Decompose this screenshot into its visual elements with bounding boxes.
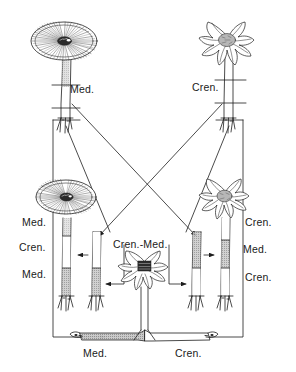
label-top-left-stock: Med.: [70, 83, 94, 95]
flower-head-crenate-top-right: [199, 22, 254, 65]
flower-head-medium-top-left: [31, 22, 97, 60]
label-mid-right-lower: Cren.: [245, 271, 272, 283]
figure-canvas: Med. Cren. Med. Cren. Med. Cren.-Med. Cr…: [0, 0, 296, 372]
label-mid-left-lower: Med.: [22, 268, 46, 280]
label-chimera-cutting: Cren.-Med.: [113, 238, 168, 250]
label-mid-right-middle: Med.: [243, 243, 267, 255]
flower-center-mid-left: [60, 193, 73, 201]
horizontal-rhizome: [70, 330, 218, 341]
flower-center-top-right: [219, 34, 236, 47]
flower-head-crenate-mid-right: [199, 179, 249, 219]
label-mid-right-upper: Cren.: [245, 216, 272, 228]
arrow-right-cutting-to-plant: [169, 245, 214, 284]
cutting-right: [188, 232, 204, 311]
label-mid-left-middle: Cren.: [19, 241, 46, 253]
diagonal-connectors: [66, 104, 229, 236]
roots-mid-left: [58, 296, 74, 311]
graft-marks-top-right: [215, 80, 246, 103]
cutting-left: [88, 232, 104, 311]
frame-right-return: [192, 120, 243, 337]
label-top-right-stock: Cren.: [192, 81, 219, 93]
stem-mid-right: [221, 218, 230, 296]
flower-head-chimera-center: [118, 251, 168, 290]
crenate-plant-top-right: [199, 22, 254, 133]
roots-mid-right: [217, 296, 233, 311]
frame-left-return: [53, 120, 105, 337]
label-rhizome-right: Cren.: [175, 347, 202, 359]
graft-chimera-figure: Med. Cren. Med. Cren. Med. Cren.-Med. Cr…: [0, 0, 296, 372]
stem-center: [141, 287, 148, 330]
flower-center-top-left: [58, 37, 72, 46]
flower-center-mid-right: [217, 190, 232, 202]
roots-cutting-right: [188, 296, 204, 311]
stem-top-right: [224, 55, 233, 118]
chimera-plant-center: [118, 251, 168, 330]
stem-mid-left: [62, 218, 71, 296]
crenate-plant-mid-right: [199, 179, 249, 311]
medium-plant-top-left: [31, 22, 97, 133]
diagonal-left-to-right: [72, 104, 196, 236]
flower-head-medium-mid-left: [36, 180, 96, 215]
label-mid-left-upper: Med.: [22, 216, 46, 228]
diagonal-right-to-left: [99, 104, 222, 236]
roots-cutting-left: [88, 296, 104, 311]
flower-center-chimera: [138, 261, 151, 271]
label-rhizome-left: Med.: [83, 347, 107, 359]
